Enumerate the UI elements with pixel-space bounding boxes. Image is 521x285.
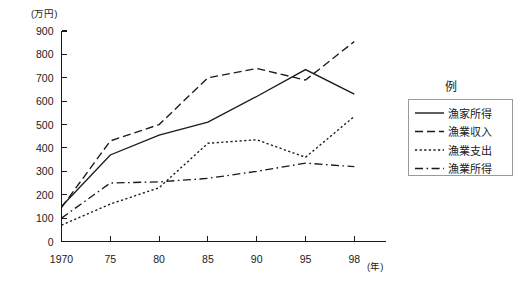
y-tick-label: 100 xyxy=(36,212,54,224)
y-tick-label: 300 xyxy=(36,165,54,177)
y-tick-label: 600 xyxy=(36,95,54,107)
y-tick-label: 400 xyxy=(36,142,54,154)
x-tick-label: 95 xyxy=(300,253,312,265)
y-axis-unit-label: (万円) xyxy=(31,8,57,19)
x-tick-label: 98 xyxy=(348,253,360,265)
x-tick-label: 80 xyxy=(153,253,165,265)
y-tick-label: 0 xyxy=(48,236,54,248)
y-tick-label: 800 xyxy=(36,48,54,60)
y-tick-label: 500 xyxy=(36,119,54,131)
legend-label-3: 漁業支出 xyxy=(448,144,492,157)
chart-figure: (万円) 0100200300400500600700800900 197075… xyxy=(0,0,521,285)
data-series-group xyxy=(62,42,355,226)
y-tick-label: 700 xyxy=(36,72,54,84)
y-axis-ticks xyxy=(62,31,68,218)
series-line-4 xyxy=(62,163,355,218)
y-axis-tick-labels: 0100200300400500600700800900 xyxy=(36,25,54,248)
legend-label-1: 漁家所得 xyxy=(448,107,492,120)
x-tick-label: 90 xyxy=(251,253,263,265)
x-tick-label: 1970 xyxy=(50,253,74,265)
series-line-3 xyxy=(62,116,355,225)
y-tick-label: 900 xyxy=(36,25,54,37)
x-tick-label: 85 xyxy=(202,253,214,265)
legend-title: 例 xyxy=(445,80,457,94)
y-tick-label: 200 xyxy=(36,189,54,201)
axis-lines xyxy=(62,31,387,242)
x-axis-unit-label: (年) xyxy=(367,261,383,272)
series-line-2 xyxy=(62,42,355,208)
x-axis-tick-labels: 1970758085909598 xyxy=(50,253,360,265)
x-tick-label: 75 xyxy=(104,253,116,265)
legend-label-2: 漁業収入 xyxy=(448,125,492,138)
line-chart: (万円) 0100200300400500600700800900 197075… xyxy=(0,0,521,285)
x-axis-ticks xyxy=(62,236,355,242)
legend-label-4: 漁業所得 xyxy=(448,162,492,175)
